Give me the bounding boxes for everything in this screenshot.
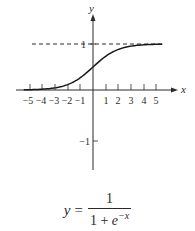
svg-text:2: 2 — [116, 95, 121, 106]
formula-lhs: y — [64, 202, 71, 219]
x-tick-labels: −5 −4 −3 −2 −1 1 2 3 4 5 — [23, 95, 159, 106]
svg-text:−4: −4 — [36, 95, 47, 106]
formula-numerator: 1 — [104, 192, 115, 208]
formula-denominator-exponent: −x — [118, 210, 129, 221]
y-axis-label: y — [88, 2, 94, 14]
x-axis-arrow-icon — [171, 88, 178, 93]
y-axis-arrow-icon — [91, 14, 96, 21]
formula-equals: = — [74, 202, 82, 219]
y-tick-label-minus-1: −1 — [79, 136, 90, 147]
svg-text:−5: −5 — [23, 95, 34, 106]
svg-text:3: 3 — [129, 95, 134, 106]
svg-text:4: 4 — [142, 95, 147, 106]
svg-text:−3: −3 — [49, 95, 60, 106]
formula-fraction: 1 1 + e−x — [88, 192, 131, 228]
y-tick-label-1: 1 — [81, 39, 86, 50]
svg-text:5: 5 — [154, 95, 159, 106]
svg-text:−1: −1 — [75, 95, 86, 106]
svg-text:−2: −2 — [62, 95, 73, 106]
formula-denominator: 1 + e−x — [88, 208, 131, 228]
svg-text:1: 1 — [104, 95, 109, 106]
sigmoid-plot: x y −5 −4 −3 −2 −1 1 2 3 4 5 1 −1 — [0, 0, 195, 175]
formula: y = 1 1 + e−x — [0, 192, 195, 228]
formula-denominator-base: 1 + — [90, 213, 112, 228]
x-axis-label: x — [180, 83, 186, 95]
